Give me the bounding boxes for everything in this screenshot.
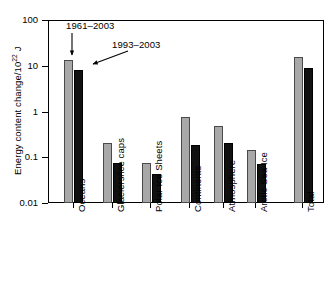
bar-total-1961-2003 <box>294 57 303 203</box>
bar-arctic-sea-ice-1961-2003 <box>247 150 256 203</box>
x-tick-atmosphere <box>223 203 224 208</box>
x-tick-total <box>302 203 303 208</box>
bar-total-1993-2003 <box>304 68 313 203</box>
energy-content-change-bar-chart: Energy content change/1022 J 1001010.10.… <box>0 0 332 308</box>
bar-polar-ice-sheets-1961-2003 <box>142 163 151 203</box>
x-tick-continents <box>189 203 190 208</box>
annotation-label-1961-2003: 1961–2003 <box>66 21 114 31</box>
x-tick-oceans <box>73 203 74 208</box>
y-tick-label-100: 100 <box>0 15 38 25</box>
x-tick-polar-ice-sheets <box>150 203 151 208</box>
x-tick-arctic-sea-ice <box>255 203 256 208</box>
y-tick-label-0.1: 0.1 <box>0 152 38 162</box>
y-tick-0.01 <box>42 203 48 204</box>
x-label-total: Total <box>306 191 316 212</box>
x-label-continents: Continents <box>193 166 203 212</box>
y-axis-title-suffix: J <box>12 47 23 55</box>
y-tick-label-1: 1 <box>0 107 38 117</box>
bar-continents-1961-2003 <box>181 117 190 203</box>
y-tick-label-0.01: 0.01 <box>0 198 38 208</box>
x-label-oceans: Oceans <box>77 179 87 212</box>
annotation-label-1993-2003: 1993–2003 <box>112 40 160 50</box>
plot-area <box>48 20 324 203</box>
bar-oceans-1961-2003 <box>64 60 73 203</box>
x-label-atmosphere: Atmosphere <box>227 160 237 212</box>
x-label-arctic-sea-ice: Arctic Sea Ice <box>259 152 269 212</box>
x-label-polar-ice-sheets: Polar Ice Sheets <box>154 141 164 212</box>
y-tick-label-10: 10 <box>0 61 38 71</box>
bar-glaciers-ice-caps-1961-2003 <box>103 143 112 203</box>
x-label-glaciers-ice-caps: Glaciers/ice caps <box>116 138 126 212</box>
bar-atmosphere-1961-2003 <box>214 126 223 203</box>
x-tick-glaciers-ice-caps <box>112 203 113 208</box>
